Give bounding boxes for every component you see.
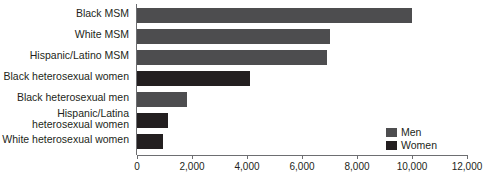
category-label-3: Black heterosexual women — [4, 71, 129, 82]
bar-row — [137, 8, 412, 23]
x-axis-tick — [302, 155, 303, 159]
x-axis-tick-label: 8,000 — [344, 161, 369, 172]
category-label-1: White MSM — [75, 29, 129, 40]
x-axis-tick — [192, 155, 193, 159]
x-axis-tick-label: 2,000 — [179, 161, 204, 172]
legend-label-men: Men — [401, 127, 421, 138]
x-axis-tick-label: 4,000 — [234, 161, 259, 172]
bar-row — [137, 92, 187, 107]
x-axis-tick-label: 12,000 — [452, 161, 483, 172]
bar-white-heterosexual-women — [137, 134, 163, 149]
bar-chart: Black MSM White MSM Hispanic/Latino MSM … — [0, 0, 488, 185]
bar-row — [137, 29, 330, 44]
x-axis-tick-label: 6,000 — [289, 161, 314, 172]
x-axis-tick-label: 10,000 — [397, 161, 428, 172]
y-axis-line — [136, 4, 137, 155]
category-label-4: Black heterosexual men — [17, 92, 129, 103]
bar-hispanic-latina-heterosexual-women — [137, 113, 168, 128]
bar-black-heterosexual-women — [137, 71, 250, 86]
x-axis-tick — [247, 155, 248, 159]
bar-black-heterosexual-men — [137, 92, 187, 107]
bar-hispanic-latino-msm — [137, 50, 327, 65]
category-label-0: Black MSM — [76, 8, 129, 19]
legend-label-women: Women — [401, 140, 437, 151]
bar-row — [137, 50, 327, 65]
category-label-6: White heterosexual women — [2, 134, 129, 145]
bar-row — [137, 113, 168, 128]
x-axis-tick — [412, 155, 413, 159]
bar-black-msm — [137, 8, 412, 23]
category-label-5: Hispanic/Latina heterosexual women — [32, 108, 129, 130]
x-axis-tick-label: 0 — [134, 161, 140, 172]
legend-item-women: Women — [386, 140, 437, 151]
x-axis-tick — [137, 155, 138, 159]
legend: Men Women — [386, 127, 437, 153]
bar-row — [137, 71, 250, 86]
bar-row — [137, 134, 163, 149]
category-axis-labels: Black MSM White MSM Hispanic/Latino MSM … — [0, 0, 133, 152]
category-label-2: Hispanic/Latino MSM — [30, 50, 129, 61]
bar-white-msm — [137, 29, 330, 44]
legend-item-men: Men — [386, 127, 437, 138]
x-axis-tick — [357, 155, 358, 159]
legend-swatch-men-icon — [386, 128, 397, 137]
x-axis-tick — [467, 155, 468, 159]
legend-swatch-women-icon — [386, 141, 397, 150]
